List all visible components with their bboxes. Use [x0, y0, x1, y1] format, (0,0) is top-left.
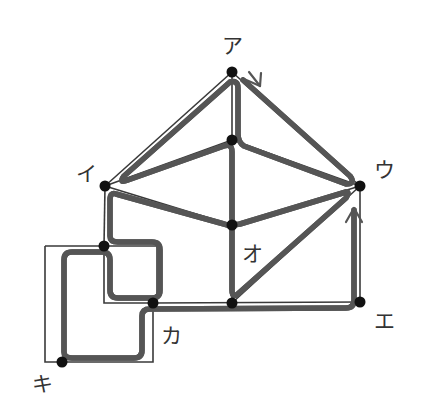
node-i: [100, 181, 111, 192]
label-ki: キ: [32, 374, 53, 395]
label-e: エ: [374, 311, 395, 332]
label-o: オ: [242, 244, 263, 265]
label-a: ア: [222, 36, 243, 57]
node-e: [355, 297, 366, 308]
node-u: [355, 181, 366, 192]
node-o: [227, 220, 238, 231]
node-ki: [57, 357, 68, 368]
label-i: イ: [76, 164, 97, 185]
node-bottom-mid: [227, 298, 238, 309]
node-ka: [148, 298, 159, 309]
node-a: [227, 67, 238, 78]
label-u: ウ: [374, 160, 395, 181]
label-ka: カ: [161, 326, 182, 347]
node-left-mid: [99, 241, 110, 252]
graph-nodes: [57, 67, 366, 368]
node-top-center: [227, 135, 238, 146]
traced-route: [64, 80, 354, 358]
graph-diagram: [0, 0, 425, 418]
